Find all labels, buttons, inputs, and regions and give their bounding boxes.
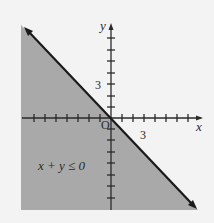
inequality-graph: x y O 3 3 x + y ≤ 0 [0,0,214,223]
origin-label: O [101,118,110,132]
x-tick-label-3: 3 [140,128,146,142]
y-axis-arrow-icon [109,23,114,30]
y-tick-label-3: 3 [95,78,101,92]
x-axis-label: x [195,119,202,134]
inequality-label: x + y ≤ 0 [37,158,85,173]
y-axis-label: y [98,18,106,33]
